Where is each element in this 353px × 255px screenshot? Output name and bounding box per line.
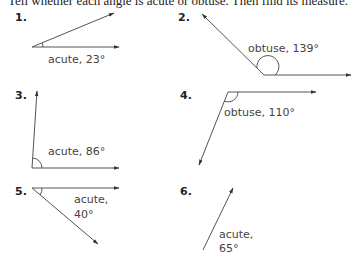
problem-4-number: 4.	[180, 89, 192, 102]
problem-3-answer: acute, 86°	[48, 145, 105, 158]
problem-2-answer: obtuse, 139°	[248, 42, 319, 55]
problem-2-number: 2.	[178, 11, 190, 24]
problem-5-number: 5.	[15, 185, 27, 198]
problem-3-number: 3.	[15, 89, 27, 102]
angle-4-figure	[199, 92, 316, 165]
problem-1-number: 1.	[15, 11, 27, 24]
problem-6-answer-line2: 65°	[219, 242, 239, 255]
problem-6-answer-line1: acute,	[219, 228, 253, 241]
angle-1-figure	[32, 13, 119, 47]
problem-5-answer-line2: 40°	[74, 208, 94, 221]
problem-4-answer: obtuse, 110°	[224, 106, 295, 119]
problem-1-answer: acute, 23°	[48, 53, 105, 66]
problem-5-answer-line1: acute,	[74, 193, 108, 206]
problem-6-number: 6.	[180, 185, 192, 198]
